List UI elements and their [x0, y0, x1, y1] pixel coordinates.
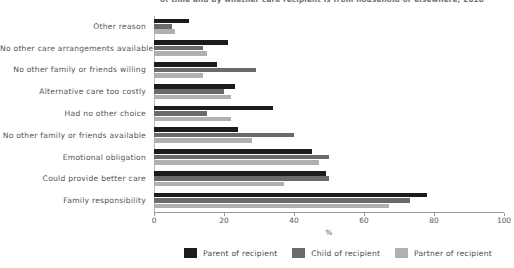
bar [154, 171, 326, 176]
bar [154, 46, 203, 51]
y-axis-label: Family responsibility [0, 196, 146, 205]
bar [154, 89, 224, 94]
bar [154, 117, 231, 122]
x-tick-label: 80 [429, 216, 438, 225]
chart-legend: Parent of recipientChild of recipientPar… [154, 245, 504, 261]
x-tick-label: 0 [152, 216, 157, 225]
bar-group [154, 168, 504, 190]
bar-group [154, 38, 504, 60]
bar [154, 138, 252, 143]
legend-label: Child of recipient [311, 249, 380, 258]
y-axis-labels: Other reasonNo other care arrangements a… [0, 16, 150, 212]
legend-swatch-icon [395, 248, 408, 258]
bar-group [154, 81, 504, 103]
bar [154, 40, 228, 45]
chart-title-strip: of time and by whether care recipient is… [0, 0, 514, 6]
bar [154, 111, 207, 116]
legend-item[interactable]: Parent of recipient [184, 248, 278, 258]
legend-item[interactable]: Child of recipient [292, 248, 380, 258]
bar [154, 51, 207, 56]
plot-area [154, 16, 504, 212]
x-tick-label: 40 [289, 216, 298, 225]
bar [154, 176, 329, 181]
x-axis-ticks: 020406080100 [154, 213, 504, 225]
bar-group [154, 60, 504, 82]
bar [154, 24, 172, 29]
y-axis-label: Alternative care too costly [0, 87, 146, 96]
x-tick-label: 60 [359, 216, 368, 225]
legend-swatch-icon [292, 248, 305, 258]
bar-group [154, 125, 504, 147]
bar [154, 182, 284, 187]
y-axis-label: No other family or friends willing [0, 65, 146, 74]
legend-label: Partner of recipient [414, 249, 492, 258]
y-axis-label: No other family or friends available [0, 131, 146, 140]
bar [154, 160, 319, 165]
x-axis-title: % [154, 228, 504, 237]
bar [154, 133, 294, 138]
legend-item[interactable]: Partner of recipient [395, 248, 492, 258]
x-tick-label: 20 [219, 216, 228, 225]
bar [154, 29, 175, 34]
bar-group [154, 16, 504, 38]
bar [154, 19, 189, 24]
bar-group [154, 147, 504, 169]
bar-chart: of time and by whether care recipient is… [0, 0, 514, 268]
y-axis-label: Could provide better care [0, 174, 146, 183]
bar-group [154, 190, 504, 212]
legend-label: Parent of recipient [203, 249, 278, 258]
chart-title: of time and by whether care recipient is… [160, 0, 484, 4]
bar [154, 62, 217, 67]
bar [154, 95, 231, 100]
x-tick-label: 100 [497, 216, 511, 225]
bar [154, 198, 410, 203]
y-axis-label: Emotional obligation [0, 153, 146, 162]
y-axis-label: Other reason [0, 22, 146, 31]
bar [154, 84, 235, 89]
bar-group [154, 103, 504, 125]
bar [154, 193, 427, 198]
bar [154, 127, 238, 132]
bar [154, 106, 273, 111]
y-axis-label: No other care arrangements available [0, 44, 146, 53]
bar [154, 73, 203, 78]
bar [154, 149, 312, 154]
y-axis-label: Had no other choice [0, 109, 146, 118]
bar [154, 204, 389, 209]
legend-swatch-icon [184, 248, 197, 258]
bar [154, 155, 329, 160]
bar [154, 68, 256, 73]
